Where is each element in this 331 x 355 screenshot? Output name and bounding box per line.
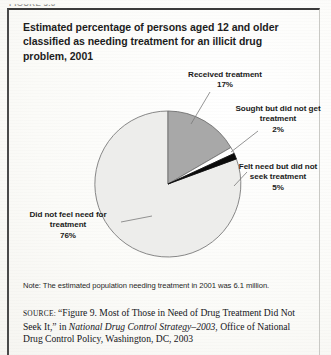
document-page: FIGURE 3.6 Estimated percentage of perso…: [0, 0, 331, 355]
cut-off-figure-header: FIGURE 3.6: [9, 0, 149, 7]
figure-source: SOURCE: “Figure 9. Most of Those in Need…: [23, 307, 305, 346]
figure-note: Note: The estimated population needing t…: [23, 281, 303, 291]
figure-title: Estimated percentage of persons aged 12 …: [23, 20, 295, 63]
figure-divider: [12, 301, 318, 302]
source-publication-title: National Drug Control Strategy–2003: [69, 321, 216, 332]
source-label: SOURCE:: [23, 309, 58, 318]
